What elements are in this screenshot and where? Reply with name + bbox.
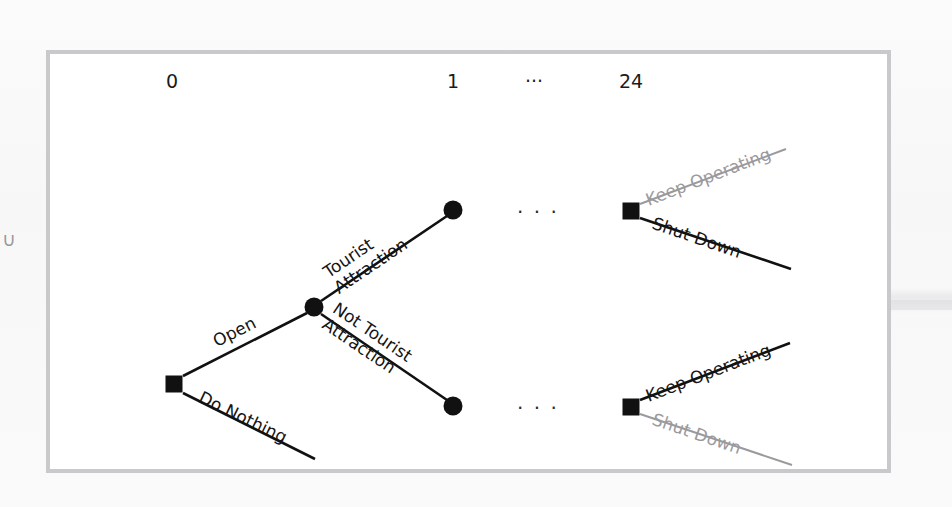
node-shape-group: [166, 201, 640, 416]
branch-line-group: [183, 149, 792, 465]
node-decision-dn: [623, 399, 640, 416]
node-outcome-up: [444, 201, 463, 220]
branch-line-tourist-attraction: [321, 216, 447, 301]
branch-line-keep-operating-top: [640, 149, 786, 204]
node-outcome-dn: [444, 397, 463, 416]
branch-line-shut-down-top: [640, 218, 791, 269]
branch-line-open: [183, 313, 307, 376]
branch-line-not-tourist-attraction: [321, 314, 447, 400]
branch-line-do-nothing: [183, 393, 315, 459]
branch-line-keep-operating-bottom: [640, 343, 790, 400]
branch-line-shut-down-bottom: [640, 414, 792, 465]
decision-tree-svg: [50, 54, 895, 477]
figure-frame: 01···24 · · ·· · · OpenDo NothingTourist…: [46, 50, 891, 473]
node-root: [166, 376, 183, 393]
node-chance-1: [305, 298, 324, 317]
node-decision-up: [623, 203, 640, 220]
